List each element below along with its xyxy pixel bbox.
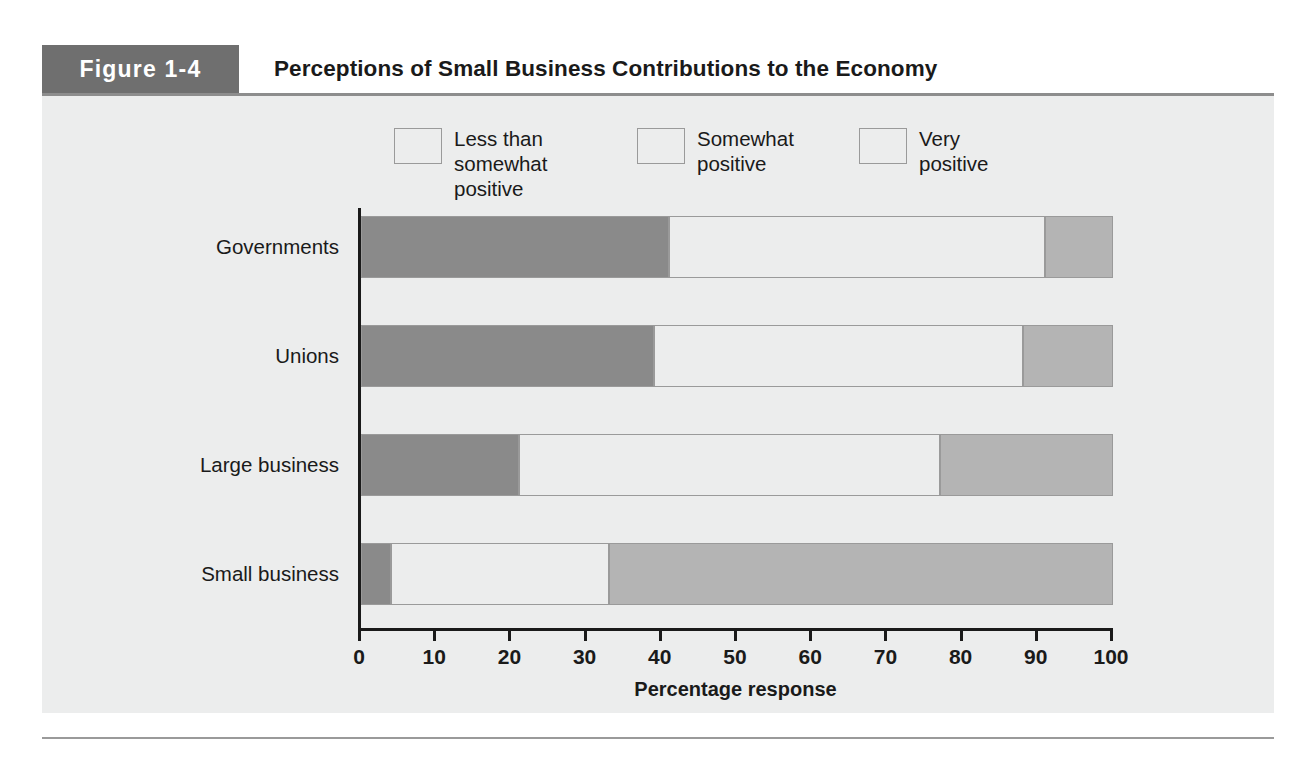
bar-rows: GovernmentsUnionsLarge businessSmall bus… bbox=[361, 208, 1128, 628]
figure-page: Figure 1-4 Perceptions of Small Business… bbox=[0, 0, 1313, 760]
bar-segment bbox=[361, 216, 669, 278]
category-label: Unions bbox=[275, 325, 361, 387]
bottom-divider bbox=[42, 737, 1274, 739]
bar-segment bbox=[391, 543, 609, 605]
x-axis-tick-label: 50 bbox=[723, 645, 746, 669]
x-axis-tick bbox=[960, 628, 963, 641]
bar-segment bbox=[654, 325, 1022, 387]
bar-segment bbox=[361, 543, 391, 605]
x-axis-tick bbox=[584, 628, 587, 641]
x-axis-tick bbox=[884, 628, 887, 641]
x-axis-tick-label: 60 bbox=[799, 645, 822, 669]
x-axis-tick-label: 30 bbox=[573, 645, 596, 669]
bar-segment bbox=[361, 434, 519, 496]
x-axis-tick-label: 100 bbox=[1093, 645, 1128, 669]
category-label: Governments bbox=[216, 216, 361, 278]
bar-row: Small business bbox=[361, 543, 1128, 605]
x-axis-tick-label: 80 bbox=[949, 645, 972, 669]
stacked-bar bbox=[361, 434, 1113, 496]
x-axis-tick bbox=[358, 628, 361, 641]
bar-segment bbox=[609, 543, 1113, 605]
figure-header: Figure 1-4 Perceptions of Small Business… bbox=[42, 45, 1274, 93]
bar-segment bbox=[1045, 216, 1113, 278]
x-axis-tick bbox=[734, 628, 737, 641]
legend-label: Less than somewhat positive bbox=[454, 126, 547, 201]
bar-segment bbox=[1023, 325, 1113, 387]
x-axis-tick-label: 0 bbox=[353, 645, 365, 669]
x-axis-tick bbox=[508, 628, 511, 641]
legend-item-somewhat-positive: Somewhat positive bbox=[637, 126, 794, 176]
x-axis-tick bbox=[659, 628, 662, 641]
figure-number-tag: Figure 1-4 bbox=[42, 45, 239, 93]
bar-row: Large business bbox=[361, 434, 1128, 496]
x-axis-tick-label: 70 bbox=[874, 645, 897, 669]
x-axis-tick-label: 90 bbox=[1024, 645, 1047, 669]
x-axis-tick-label: 10 bbox=[423, 645, 446, 669]
legend-item-less-than-somewhat-positive: Less than somewhat positive bbox=[394, 126, 547, 201]
x-axis-tick-label: 20 bbox=[498, 645, 521, 669]
chart-legend: Less than somewhat positive Somewhat pos… bbox=[394, 126, 1094, 218]
legend-label: Very positive bbox=[919, 126, 989, 176]
x-axis-tick bbox=[1110, 628, 1113, 641]
stacked-bar bbox=[361, 216, 1113, 278]
x-axis-tick-label: 40 bbox=[648, 645, 671, 669]
x-axis-tick bbox=[1035, 628, 1038, 641]
x-axis-title: Percentage response bbox=[358, 678, 1113, 701]
bar-row: Unions bbox=[361, 325, 1128, 387]
bar-segment bbox=[361, 325, 654, 387]
bar-row: Governments bbox=[361, 216, 1128, 278]
legend-label: Somewhat positive bbox=[697, 126, 794, 176]
legend-item-very-positive: Very positive bbox=[859, 126, 989, 176]
category-label: Large business bbox=[200, 434, 361, 496]
bar-segment bbox=[669, 216, 1045, 278]
legend-swatch-icon bbox=[859, 128, 907, 164]
category-label: Small business bbox=[201, 543, 361, 605]
x-axis-tick bbox=[809, 628, 812, 641]
x-axis: 0102030405060708090100 bbox=[358, 628, 1116, 629]
bar-segment bbox=[940, 434, 1113, 496]
chart-panel: Less than somewhat positive Somewhat pos… bbox=[42, 96, 1274, 713]
stacked-bar bbox=[361, 543, 1113, 605]
stacked-bar bbox=[361, 325, 1113, 387]
figure-title: Perceptions of Small Business Contributi… bbox=[274, 45, 937, 93]
plot-area: GovernmentsUnionsLarge businessSmall bus… bbox=[358, 208, 1128, 628]
bar-segment bbox=[519, 434, 940, 496]
legend-swatch-icon bbox=[394, 128, 442, 164]
legend-swatch-icon bbox=[637, 128, 685, 164]
x-axis-tick bbox=[433, 628, 436, 641]
